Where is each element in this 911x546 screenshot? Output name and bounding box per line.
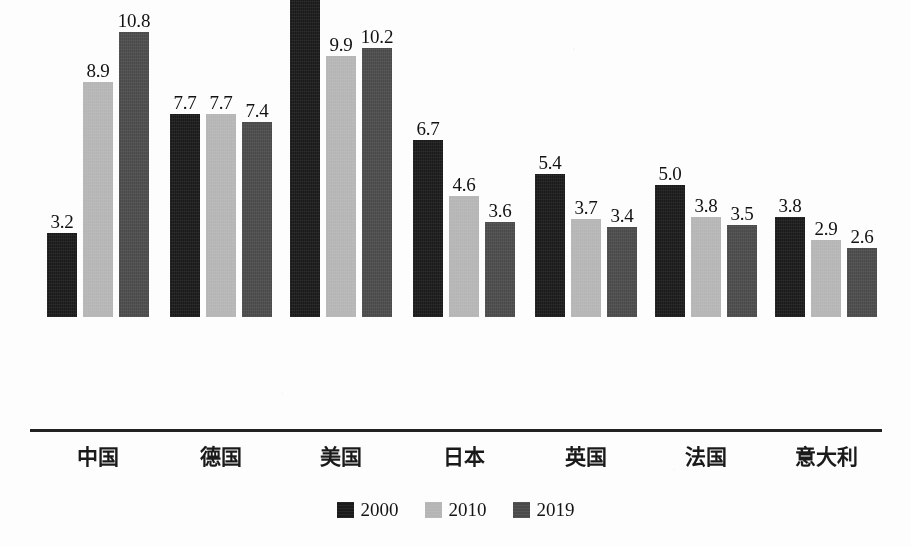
bar[interactable]: 3.8 — [775, 217, 805, 317]
bar-column: 9.9 — [326, 56, 356, 317]
category-label: 法国 — [685, 446, 727, 467]
bar-column: 6.7 — [413, 140, 443, 317]
bar-value-label: 3.5 — [730, 204, 753, 223]
legend-label: 2010 — [449, 500, 487, 519]
bar-column: 3.2 — [47, 233, 77, 317]
x-axis-line — [30, 429, 882, 432]
bar[interactable]: 2.9 — [811, 240, 841, 317]
chart-legend: 200020102019 — [0, 500, 911, 519]
bar-value-label: 10.2 — [361, 27, 393, 46]
bar-value-label: 3.7 — [574, 198, 597, 217]
bar-column: 3.5 — [727, 225, 757, 317]
legend-label: 2019 — [537, 500, 575, 519]
bar-column: 7.4 — [242, 122, 272, 317]
bar-column: 4.6 — [449, 196, 479, 317]
category-label: 意大利 — [795, 446, 858, 467]
bar-value-label: 10.8 — [118, 11, 150, 30]
bar-group-bars: 14.19.910.2 — [290, 0, 392, 317]
bar[interactable]: 10.8 — [119, 32, 149, 317]
legend-item[interactable]: 2000 — [337, 500, 399, 519]
bar-column: 3.6 — [485, 222, 515, 317]
bar[interactable]: 8.9 — [83, 82, 113, 317]
bar-value-label: 3.8 — [694, 196, 717, 215]
category-label: 中国 — [77, 446, 119, 467]
legend-label: 2000 — [361, 500, 399, 519]
bar-column: 7.7 — [170, 114, 200, 317]
bar-column: 7.7 — [206, 114, 236, 317]
category-label: 日本 — [443, 446, 485, 467]
plot-area: 3.28.910.87.77.77.414.19.910.26.74.63.65… — [0, 0, 911, 432]
bar[interactable]: 9.9 — [326, 56, 356, 317]
bar-column: 5.4 — [535, 174, 565, 317]
legend-item[interactable]: 2019 — [513, 500, 575, 519]
category-label: 德国 — [200, 446, 242, 467]
bar[interactable]: 3.2 — [47, 233, 77, 317]
bar[interactable]: 2.6 — [847, 248, 877, 317]
bar[interactable]: 7.7 — [170, 114, 200, 317]
bar[interactable]: 3.6 — [485, 222, 515, 317]
bar-value-label: 7.7 — [209, 93, 232, 112]
bar-group-bars: 5.43.73.4 — [535, 174, 637, 317]
bar-column: 5.0 — [655, 185, 685, 317]
bar-value-label: 3.2 — [50, 212, 73, 231]
bar-column: 10.2 — [362, 48, 392, 317]
bar-value-label: 5.0 — [658, 164, 681, 183]
bar-value-label: 5.4 — [538, 153, 561, 172]
bar[interactable]: 3.7 — [571, 219, 601, 317]
bar-column: 3.4 — [607, 227, 637, 317]
legend-swatch-icon — [337, 502, 354, 518]
bar-value-label: 9.9 — [329, 35, 352, 54]
bar[interactable]: 3.4 — [607, 227, 637, 317]
bar-group-bars: 6.74.63.6 — [413, 140, 515, 317]
chart-page: 3.28.910.87.77.77.414.19.910.26.74.63.65… — [0, 0, 911, 546]
bar-value-label: 6.7 — [416, 119, 439, 138]
bar-value-label: 7.7 — [173, 93, 196, 112]
category-label: 美国 — [320, 446, 362, 467]
bar-group-bars: 7.77.77.4 — [170, 114, 272, 317]
bar-group-bars: 3.82.92.6 — [775, 217, 877, 317]
bar-column: 3.8 — [775, 217, 805, 317]
bar-value-label: 4.6 — [452, 175, 475, 194]
bar[interactable]: 7.7 — [206, 114, 236, 317]
bar[interactable]: 14.1 — [290, 0, 320, 317]
category-label: 英国 — [565, 446, 607, 467]
bar-column: 2.9 — [811, 240, 841, 317]
bar-column: 3.7 — [571, 219, 601, 317]
bar-value-label: 2.9 — [814, 219, 837, 238]
bar-group-bars: 5.03.83.5 — [655, 185, 757, 317]
bar-value-label: 2.6 — [850, 227, 873, 246]
legend-item[interactable]: 2010 — [425, 500, 487, 519]
bar[interactable]: 10.2 — [362, 48, 392, 317]
bar-group-bars: 3.28.910.8 — [47, 32, 149, 317]
bar[interactable]: 3.5 — [727, 225, 757, 317]
bar-column: 10.8 — [119, 32, 149, 317]
bar[interactable]: 7.4 — [242, 122, 272, 317]
bar[interactable]: 6.7 — [413, 140, 443, 317]
legend-swatch-icon — [513, 502, 530, 518]
bar-value-label: 7.4 — [245, 101, 268, 120]
bar[interactable]: 3.8 — [691, 217, 721, 317]
bar-column: 2.6 — [847, 248, 877, 317]
bar[interactable]: 5.0 — [655, 185, 685, 317]
bar-value-label: 8.9 — [86, 61, 109, 80]
bar-column: 3.8 — [691, 217, 721, 317]
bar-column: 8.9 — [83, 82, 113, 317]
bar[interactable]: 5.4 — [535, 174, 565, 317]
bar-value-label: 3.8 — [778, 196, 801, 215]
bar-column: 14.1 — [290, 0, 320, 317]
legend-swatch-icon — [425, 502, 442, 518]
bar-value-label: 3.6 — [488, 201, 511, 220]
bar-value-label: 3.4 — [610, 206, 633, 225]
bar[interactable]: 4.6 — [449, 196, 479, 317]
